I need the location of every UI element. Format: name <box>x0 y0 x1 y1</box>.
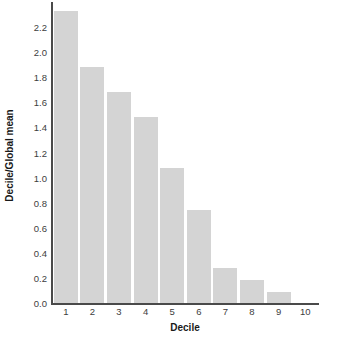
y-tick-label: 0.8 <box>34 197 47 208</box>
y-axis-title: Decile/Global mean <box>0 0 18 310</box>
y-tick-label: 2.2 <box>34 22 47 33</box>
y-tick-label: 1.4 <box>34 122 47 133</box>
bar <box>134 117 158 303</box>
y-tick-label: 0.0 <box>34 298 47 309</box>
plot-area <box>51 2 319 303</box>
x-tick-label: 1 <box>63 306 68 317</box>
y-axis-title-text: Decile/Global mean <box>4 109 15 201</box>
x-tick-label: 3 <box>116 306 121 317</box>
x-tick-label: 10 <box>300 306 311 317</box>
y-tick-label: 1.0 <box>34 172 47 183</box>
bar-series <box>53 2 319 303</box>
y-tick-label: 0.2 <box>34 272 47 283</box>
x-tick-label: 7 <box>223 306 228 317</box>
bar <box>240 280 264 303</box>
bar <box>187 210 211 303</box>
bar <box>54 11 78 303</box>
y-tick-label: 0.6 <box>34 222 47 233</box>
y-tick-label: 1.2 <box>34 147 47 158</box>
bar <box>80 67 104 303</box>
y-tick-label: 1.8 <box>34 72 47 83</box>
x-tick-label: 5 <box>170 306 175 317</box>
y-tick-label: 1.6 <box>34 97 47 108</box>
x-tick-label: 4 <box>143 306 148 317</box>
bar <box>213 268 237 303</box>
x-tick-label: 8 <box>249 306 254 317</box>
y-tick-label: 2.0 <box>34 47 47 58</box>
x-tick-label: 6 <box>196 306 201 317</box>
x-axis-line <box>51 303 319 305</box>
x-axis-tick-labels: 12345678910 <box>51 306 319 322</box>
x-axis-title: Decile <box>51 322 319 333</box>
bar-chart: Decile/Global mean 0.00.20.40.60.81.01.2… <box>0 0 337 340</box>
bar <box>160 168 184 303</box>
bar <box>107 92 131 303</box>
y-axis-tick-labels: 0.00.20.40.60.81.01.21.41.61.82.02.2 <box>18 0 50 310</box>
y-tick-label: 0.4 <box>34 247 47 258</box>
x-tick-label: 9 <box>276 306 281 317</box>
bar <box>267 292 291 303</box>
x-tick-label: 2 <box>90 306 95 317</box>
